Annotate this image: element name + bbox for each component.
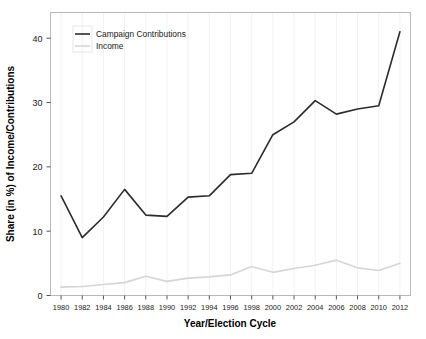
- x-tick-label: 1996: [222, 303, 238, 312]
- x-tick-label: 2010: [371, 303, 387, 312]
- legend-label-income: Income: [96, 41, 124, 51]
- x-tick-label: 1980: [53, 303, 69, 312]
- x-tick-label: 1990: [159, 303, 175, 312]
- legend-label-campaign-contributions: Campaign Contributions: [96, 29, 186, 39]
- x-tick-label: 2012: [392, 303, 408, 312]
- x-tick-label: 2006: [328, 303, 344, 312]
- y-tick-label: 40: [32, 34, 42, 44]
- x-tick-label: 1984: [95, 303, 111, 312]
- x-tick-label: 1992: [180, 303, 196, 312]
- chart-container: 010203040 198019821984198619881990199219…: [0, 0, 426, 339]
- line-chart: 010203040 198019821984198619881990199219…: [0, 0, 426, 339]
- y-tick-label: 30: [32, 98, 42, 108]
- y-tick-label: 20: [32, 162, 42, 172]
- x-tick-label: 1998: [243, 303, 259, 312]
- x-tick-label: 2000: [265, 303, 281, 312]
- x-tick-label: 2004: [307, 303, 323, 312]
- y-tick-label: 0: [37, 291, 42, 301]
- x-tick-label: 2008: [349, 303, 365, 312]
- y-tick-label: 10: [32, 227, 42, 237]
- y-axis: 010203040: [32, 34, 50, 301]
- y-axis-title: Share (in %) of Income/Contributions: [5, 66, 16, 243]
- x-tick-label: 1994: [201, 303, 217, 312]
- x-tick-label: 2002: [286, 303, 302, 312]
- x-axis-title: Year/Election Cycle: [184, 318, 277, 329]
- legend: Campaign Contributions Income: [73, 26, 186, 52]
- x-tick-label: 1986: [116, 303, 132, 312]
- x-axis: 1980198219841986198819901992199419961998…: [53, 296, 408, 312]
- x-tick-label: 1988: [138, 303, 154, 312]
- x-tick-label: 1982: [74, 303, 90, 312]
- plot-gridlines: [61, 13, 400, 296]
